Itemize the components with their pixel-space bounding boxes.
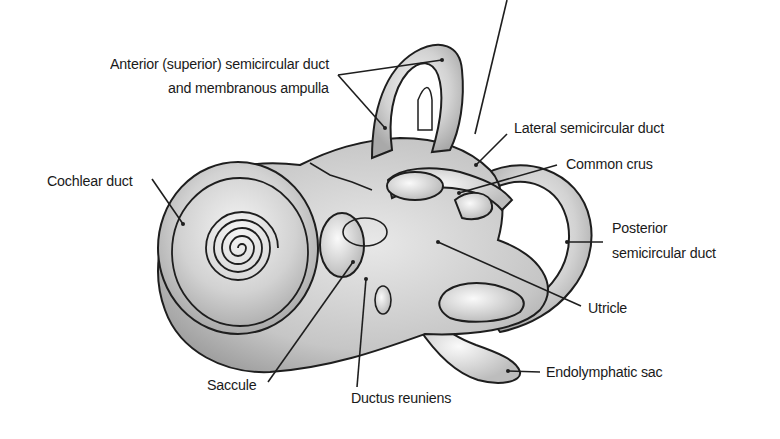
label-posterior-line1: Posterior xyxy=(612,218,667,237)
label-ductus-reuniens: Ductus reuniens xyxy=(351,388,451,407)
label-endolymphatic-sac: Endolymphatic sac xyxy=(546,362,663,381)
anterior-duct-opening xyxy=(418,88,432,130)
utricle-bulb-upper xyxy=(387,172,443,200)
label-anterior-line2: and membranous ampulla xyxy=(168,78,329,97)
common-crus-shape xyxy=(455,193,492,219)
label-saccule: Saccule xyxy=(207,375,256,394)
ductus-bulb xyxy=(375,286,391,314)
label-cochlear-duct: Cochlear duct xyxy=(47,171,133,190)
label-common-crus: Common crus xyxy=(566,154,653,173)
label-lateral-duct: Lateral semicircular duct xyxy=(514,118,664,137)
label-posterior-line2: semicircular duct xyxy=(612,243,716,262)
label-anterior-line1: Anterior (superior) semicircular duct xyxy=(110,54,329,73)
label-utricle: Utricle xyxy=(588,298,627,317)
